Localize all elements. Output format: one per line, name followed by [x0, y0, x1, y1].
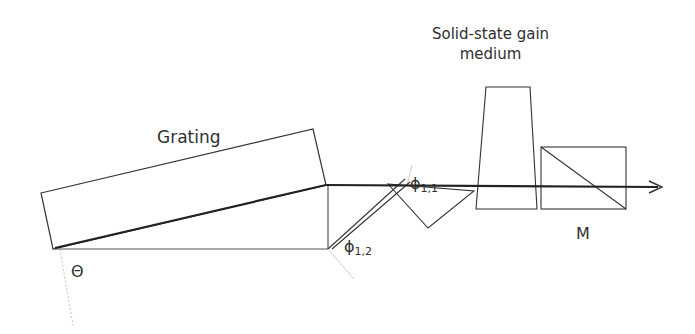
grating-block: [41, 129, 326, 249]
main-beam: [326, 185, 658, 187]
phi12-subscript: 1,2: [355, 245, 373, 258]
mirror-label: M: [576, 224, 590, 243]
diagram-canvas: [0, 0, 695, 334]
phi12-symbol: ϕ: [344, 237, 355, 256]
phi11-subscript: 1,1: [421, 182, 439, 195]
gain-medium: [476, 87, 537, 209]
gain-medium-label-line2: medium: [432, 44, 549, 64]
phi11-symbol: ϕ: [410, 174, 421, 193]
theta-normal-line: [60, 249, 73, 325]
gain-medium-label: Solid-state gain medium: [432, 24, 549, 64]
mirror-diagonal: [541, 147, 626, 209]
beam-on-grating: [55, 185, 326, 248]
phi12-label: ϕ1,2: [344, 237, 372, 258]
theta-label: Θ: [71, 262, 84, 281]
grating-label: Grating: [157, 127, 221, 147]
phi11-label: ϕ1,1: [410, 174, 438, 195]
gain-medium-label-line1: Solid-state gain: [432, 24, 549, 44]
